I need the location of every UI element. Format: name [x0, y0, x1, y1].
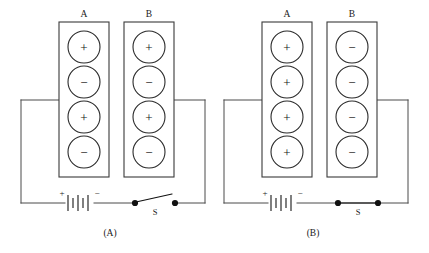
switch-label-s: S: [356, 207, 361, 217]
panel-caption-b: (B): [307, 228, 320, 239]
plate-b-charge-0: +: [133, 31, 165, 63]
charge-symbol: −: [80, 75, 87, 90]
plate-a-charge-0: +: [271, 31, 303, 63]
charge-symbol: +: [145, 40, 152, 55]
plate-a-charge-2: +: [68, 101, 100, 133]
capacitor-circuit-figure: + − S A + −: [0, 0, 429, 253]
panel-a-circuit-wires: [21, 100, 205, 203]
panel-a: + − S A + −: [21, 9, 205, 239]
battery-positive-label: +: [59, 188, 64, 198]
plate-a-charge-3: +: [271, 136, 303, 168]
figure-canvas: + − S A + −: [0, 0, 429, 253]
charge-symbol: −: [145, 145, 152, 160]
charge-symbol: −: [80, 145, 87, 160]
plate-b-charge-1: −: [133, 66, 165, 98]
panel-b: + − S A + +: [224, 9, 408, 239]
plate-a-charge-1: +: [271, 66, 303, 98]
charge-symbol: −: [348, 75, 355, 90]
plate-b-charge-3: −: [336, 136, 368, 168]
charge-symbol: +: [80, 40, 87, 55]
battery-symbol-b: + −: [262, 188, 302, 211]
plate-a-charge-0: +: [68, 31, 100, 63]
plate-a-charge-3: −: [68, 136, 100, 168]
battery-positive-label: +: [262, 188, 267, 198]
charge-symbol: +: [80, 110, 87, 125]
plate-label-b: B: [349, 9, 355, 19]
switch-terminal-right-dot[interactable]: [172, 200, 178, 206]
panel-caption-a: (A): [103, 228, 116, 239]
charge-symbol: +: [283, 110, 290, 125]
charge-symbol: +: [283, 145, 290, 160]
plate-a-charge-1: −: [68, 66, 100, 98]
plate-a-left: A + + + +: [262, 9, 312, 177]
charge-symbol: +: [283, 75, 290, 90]
plate-a-charge-2: +: [271, 101, 303, 133]
plate-b-charge-2: −: [336, 101, 368, 133]
plate-label-b: B: [146, 9, 152, 19]
charge-symbol: −: [348, 110, 355, 125]
plate-b-right: B − − − −: [327, 9, 377, 177]
battery-negative-label: −: [94, 188, 99, 198]
charge-symbol: −: [348, 40, 355, 55]
battery-negative-label: −: [297, 188, 302, 198]
plate-b-charge-2: +: [133, 101, 165, 133]
plate-a-left: A + − + −: [59, 9, 109, 177]
switch-terminal-left-dot[interactable]: [132, 200, 138, 206]
switch-lever-open[interactable]: [136, 194, 172, 202]
charge-symbol: +: [283, 40, 290, 55]
plate-b-charge-3: −: [133, 136, 165, 168]
charge-symbol: −: [348, 145, 355, 160]
plate-b-charge-0: −: [336, 31, 368, 63]
switch-label-s: S: [153, 207, 158, 217]
charge-symbol: −: [145, 75, 152, 90]
charge-symbol: +: [145, 110, 152, 125]
plate-b-charge-1: −: [336, 66, 368, 98]
plate-b-right: B + − + −: [124, 9, 174, 177]
switch-a[interactable]: S: [132, 194, 178, 217]
panel-b-circuit-wires: [224, 100, 408, 203]
plate-label-a: A: [81, 9, 88, 19]
switch-b[interactable]: S: [335, 200, 381, 217]
plate-label-a: A: [284, 9, 291, 19]
battery-symbol-a: + −: [59, 188, 99, 211]
